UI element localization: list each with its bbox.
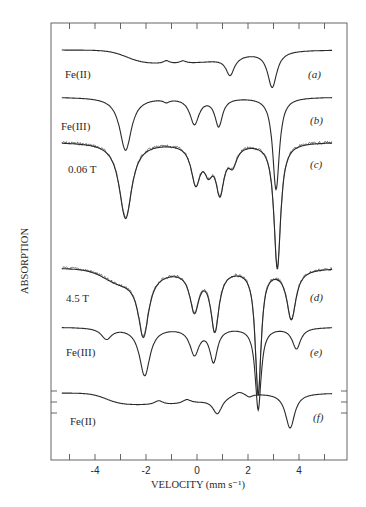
mossbauer-spectra-figure: Fe(II) (a) Fe(III) (b) 0.06 T (c) 4.5 T … <box>0 0 366 507</box>
x-tick-label: -2 <box>142 465 151 476</box>
x-tick-label: -4 <box>91 465 100 476</box>
label-e-species: Fe(III) <box>66 346 96 359</box>
panel-label-c: (c) <box>310 158 323 171</box>
fit-curve <box>62 98 332 190</box>
panel-label-f: (f) <box>313 411 324 424</box>
y-axis-label: ABSORPTION <box>19 228 30 294</box>
panel-label-d: (d) <box>310 291 323 304</box>
x-tick-label: 0 <box>194 465 200 476</box>
plot-frame <box>51 23 347 460</box>
fit-curve <box>62 393 332 429</box>
label-d-field: 4.5 T <box>66 292 89 304</box>
label-a-species: Fe(II) <box>65 68 91 81</box>
fit-curve <box>62 50 332 87</box>
data-points <box>62 141 332 267</box>
fit-curve <box>62 269 332 396</box>
panel-label-a: (a) <box>308 68 321 81</box>
x-tick-label: 2 <box>245 465 251 476</box>
x-axis-label: VELOCITY (mm s⁻¹) <box>151 479 245 491</box>
spectra-curves <box>62 50 332 428</box>
label-c-field: 0.06 T <box>68 163 97 175</box>
label-f-species: Fe(II) <box>70 415 96 428</box>
x-tick-label: 4 <box>296 465 302 476</box>
label-b-species: Fe(III) <box>61 120 91 133</box>
axis-ticks <box>51 23 347 460</box>
data-points <box>62 267 332 395</box>
fit-curve <box>62 143 332 269</box>
panel-label-e: (e) <box>310 346 323 359</box>
panel-label-b: (b) <box>310 114 323 127</box>
